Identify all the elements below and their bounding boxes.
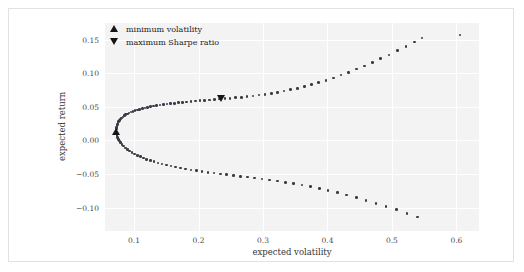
data-point (179, 167, 182, 170)
data-point (253, 177, 256, 180)
gridline-horizontal (105, 107, 479, 108)
legend-marker-column (109, 23, 120, 49)
data-point (325, 79, 328, 82)
data-point (355, 68, 358, 71)
gridline-vertical (199, 23, 200, 231)
data-point (375, 202, 378, 205)
data-point (317, 81, 320, 84)
triangle-down-icon (110, 38, 118, 45)
data-point (406, 212, 409, 215)
y-tick-label: 0.10 (73, 69, 99, 78)
data-point (195, 169, 198, 172)
data-point (177, 101, 180, 104)
legend-label-column: minimum volatility maximum Sharpe ratio (126, 23, 219, 49)
data-point (268, 179, 271, 182)
data-point (225, 173, 228, 176)
y-tick-label: −0.10 (73, 203, 99, 212)
data-point (363, 65, 366, 68)
data-point (162, 103, 165, 106)
data-point (459, 34, 462, 37)
x-axis-title: expected volatility (252, 247, 331, 257)
data-point (246, 95, 249, 98)
data-point (203, 99, 206, 102)
data-point (310, 83, 313, 86)
data-point (292, 182, 295, 185)
data-point (174, 166, 177, 169)
data-point (289, 88, 292, 91)
data-point (347, 71, 350, 74)
gridline-vertical (392, 23, 393, 231)
y-tick-label: −0.05 (73, 169, 99, 178)
data-point (388, 54, 391, 57)
x-tick-label: 0.2 (193, 236, 205, 245)
data-point (213, 98, 216, 101)
data-point (232, 174, 235, 177)
data-point (405, 45, 408, 48)
data-point (142, 157, 145, 160)
data-point (207, 171, 210, 174)
data-point (234, 96, 237, 99)
chart-legend: minimum volatility maximum Sharpe ratio (109, 23, 219, 49)
data-point (301, 184, 304, 187)
maximum-sharpe-ratio-marker (217, 95, 225, 102)
data-point (252, 95, 255, 98)
data-point (157, 162, 160, 165)
data-point (155, 104, 158, 107)
legend-item-minimum-volatility: minimum volatility (126, 24, 219, 37)
data-point (201, 170, 204, 173)
data-point (194, 100, 197, 103)
data-point (240, 96, 243, 99)
data-point (165, 164, 168, 167)
x-tick-label: 0.6 (450, 236, 462, 245)
data-point (173, 102, 176, 105)
data-point (219, 173, 222, 176)
figure-panel: 0.10.20.30.40.50.6 0.150.100.050.00−0.05… (8, 8, 514, 262)
data-point (169, 102, 172, 105)
data-point (276, 91, 279, 94)
x-tick-label: 0.1 (128, 236, 140, 245)
data-point (416, 216, 419, 219)
data-point (276, 180, 279, 183)
data-point (258, 94, 261, 97)
data-point (246, 176, 249, 179)
gridline-vertical (456, 23, 457, 231)
data-point (190, 100, 193, 103)
y-tick-label: 0.05 (73, 102, 99, 111)
data-point (336, 191, 339, 194)
gridline-horizontal (105, 174, 479, 175)
triangle-up-icon (110, 25, 118, 32)
data-point (199, 99, 202, 102)
data-point (309, 185, 312, 188)
data-point (166, 103, 169, 106)
data-point (145, 158, 148, 161)
data-point (332, 77, 335, 80)
gridline-horizontal (105, 73, 479, 74)
data-point (318, 187, 321, 190)
gridline-horizontal (105, 208, 479, 209)
plot-area (105, 23, 479, 231)
y-tick-label: 0.00 (73, 136, 99, 145)
data-point (385, 205, 388, 208)
data-point (270, 92, 273, 95)
x-tick-label: 0.4 (321, 236, 333, 245)
data-point (296, 87, 299, 90)
data-point (264, 93, 267, 96)
gridline-vertical (263, 23, 264, 231)
data-point (170, 165, 173, 168)
data-point (303, 85, 306, 88)
data-point (371, 61, 374, 64)
legend-item-maximum-sharpe-ratio: maximum Sharpe ratio (126, 37, 219, 50)
gridline-vertical (134, 23, 135, 231)
data-point (396, 49, 399, 52)
minimum-volatility-marker (112, 128, 120, 135)
data-point (395, 208, 398, 211)
data-point (345, 194, 348, 197)
data-point (153, 160, 156, 163)
gridline-vertical (327, 23, 328, 231)
data-point (229, 97, 232, 100)
data-point (181, 101, 184, 104)
data-point (149, 159, 152, 162)
data-point (284, 181, 287, 184)
x-tick-label: 0.3 (257, 236, 269, 245)
data-point (413, 41, 416, 44)
